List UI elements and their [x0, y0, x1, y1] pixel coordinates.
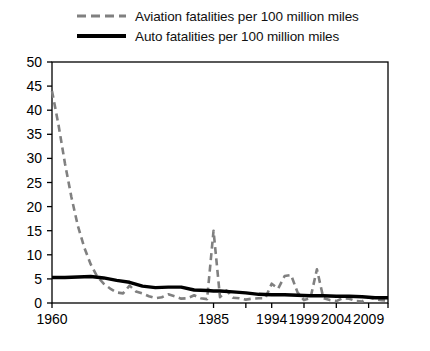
- x-tick-label: 2009: [342, 312, 396, 326]
- series-lines: [52, 91, 388, 302]
- chart-root: Aviation fatalities per 100 million mile…: [0, 0, 430, 351]
- y-tick-label: 25: [14, 176, 42, 190]
- y-tick-label: 30: [14, 151, 42, 165]
- plot-area: 05101520253035404550 1960198519941999200…: [0, 0, 430, 351]
- x-tick-label: 1960: [25, 312, 79, 326]
- x-tick-label: 1985: [187, 312, 241, 326]
- series-line: [52, 91, 388, 302]
- y-tick-label: 50: [14, 55, 42, 69]
- y-tick-label: 15: [14, 224, 42, 238]
- plot-svg: [0, 0, 430, 351]
- y-tick-label: 0: [14, 296, 42, 310]
- plot-frame: [52, 62, 388, 303]
- y-tick-label: 35: [14, 127, 42, 141]
- y-tick-label: 40: [14, 103, 42, 117]
- y-tick-label: 5: [14, 272, 42, 286]
- y-tick-label: 20: [14, 200, 42, 214]
- y-tick-label: 45: [14, 79, 42, 93]
- y-tick-label: 10: [14, 248, 42, 262]
